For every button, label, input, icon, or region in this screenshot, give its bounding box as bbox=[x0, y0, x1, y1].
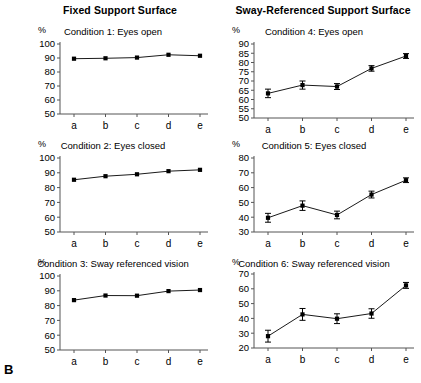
x-axis-tick-label: c bbox=[135, 238, 140, 249]
panel-condition-4: Condition 4: Eyes open%50556065707580859… bbox=[214, 26, 414, 138]
y-axis-tick-label: 60 bbox=[44, 330, 55, 341]
chart-plot-area: 5060708090100abcde bbox=[18, 258, 208, 370]
y-axis-tick-label: 100 bbox=[39, 152, 55, 163]
y-axis-tick-label: 90 bbox=[238, 38, 249, 49]
x-axis-tick-label: a bbox=[71, 356, 77, 367]
y-axis-tick-label: 40 bbox=[238, 313, 249, 324]
y-axis-tick-label: 70 bbox=[238, 268, 249, 279]
x-axis-tick-label: c bbox=[335, 354, 340, 365]
y-axis-tick-label: 80 bbox=[44, 182, 55, 193]
y-axis-tick-label: 70 bbox=[44, 197, 55, 208]
panel-condition-2: Condition 2: Eyes closed%5060708090100ab… bbox=[18, 140, 208, 252]
x-axis-tick-label: d bbox=[369, 124, 375, 135]
x-axis-tick-label: a bbox=[265, 354, 271, 365]
chart-plot-area: 304050607080abcde bbox=[214, 140, 414, 252]
y-axis-tick-label: 50 bbox=[238, 298, 249, 309]
x-axis-tick-label: d bbox=[369, 238, 375, 249]
y-axis-tick-label: 70 bbox=[44, 80, 55, 91]
y-axis-tick-label: 50 bbox=[44, 344, 55, 355]
x-axis-tick-label: a bbox=[71, 120, 77, 131]
y-axis-tick-label: 90 bbox=[44, 285, 55, 296]
x-axis-tick-label: b bbox=[300, 238, 306, 249]
x-axis-tick-label: c bbox=[135, 356, 140, 367]
x-axis-tick-label: e bbox=[403, 124, 409, 135]
y-axis-tick-label: 80 bbox=[44, 66, 55, 77]
y-axis-tick-label: 60 bbox=[44, 94, 55, 105]
x-axis-tick-label: d bbox=[369, 354, 375, 365]
y-axis-tick-label: 30 bbox=[238, 328, 249, 339]
y-axis-tick-label: 50 bbox=[44, 226, 55, 237]
x-axis-tick-label: c bbox=[335, 238, 340, 249]
y-axis-tick-label: 90 bbox=[44, 167, 55, 178]
column-heading-fixed-support: Fixed Support Surface bbox=[30, 4, 210, 16]
y-axis-tick-label: 60 bbox=[238, 182, 249, 193]
x-axis-tick-label: e bbox=[197, 120, 203, 131]
y-axis-tick-label: 80 bbox=[238, 152, 249, 163]
panel-condition-1: Condition 1: Eyes open%5060708090100abcd… bbox=[18, 26, 208, 134]
x-axis-tick-label: d bbox=[166, 356, 172, 367]
y-axis-tick-label: 60 bbox=[238, 283, 249, 294]
y-axis-tick-label: 40 bbox=[238, 212, 249, 223]
panel-condition-6: Condition 6: Sway referenced vision%2030… bbox=[214, 258, 414, 370]
x-axis-tick-label: d bbox=[166, 238, 172, 249]
y-axis-tick-label: 100 bbox=[39, 270, 55, 281]
x-axis-tick-label: a bbox=[265, 124, 271, 135]
y-axis-tick-label: 100 bbox=[39, 38, 55, 49]
panel-condition-3: Condition 3: Sway referenced vision%5060… bbox=[18, 258, 208, 370]
chart-plot-area: 5060708090100abcde bbox=[18, 140, 208, 252]
x-axis-tick-label: e bbox=[197, 238, 203, 249]
column-heading-sway-referenced-support: Sway-Referenced Support Surface bbox=[228, 4, 418, 16]
y-axis-tick-label: 60 bbox=[44, 212, 55, 223]
x-axis-tick-label: e bbox=[197, 356, 203, 367]
x-axis-tick-label: b bbox=[300, 124, 306, 135]
y-axis-tick-label: 20 bbox=[238, 342, 249, 353]
x-axis-tick-label: b bbox=[103, 120, 109, 131]
x-axis-tick-label: b bbox=[300, 354, 306, 365]
x-axis-tick-label: a bbox=[71, 238, 77, 249]
x-axis-tick-label: b bbox=[103, 238, 109, 249]
x-axis-tick-label: c bbox=[335, 124, 340, 135]
y-axis-tick-label: 80 bbox=[44, 300, 55, 311]
x-axis-tick-label: b bbox=[103, 356, 109, 367]
y-axis-tick-label: 90 bbox=[44, 52, 55, 63]
y-axis-tick-label: 50 bbox=[238, 197, 249, 208]
x-axis-tick-label: a bbox=[265, 238, 271, 249]
y-axis-tick-label: 70 bbox=[44, 315, 55, 326]
figure-panel-b: Fixed Support Surface Sway-Referenced Su… bbox=[0, 0, 421, 383]
x-axis-tick-label: d bbox=[166, 120, 172, 131]
chart-plot-area: 203040506070abcde bbox=[214, 258, 414, 370]
x-axis-tick-label: e bbox=[403, 354, 409, 365]
chart-plot-area: 505560657075808590abcde bbox=[214, 26, 414, 138]
panel-condition-5: Condition 5: Eyes closed%304050607080abc… bbox=[214, 140, 414, 252]
x-axis-tick-label: c bbox=[135, 120, 140, 131]
y-axis-tick-label: 70 bbox=[238, 167, 249, 178]
y-axis-tick-label: 50 bbox=[44, 108, 55, 119]
y-axis-tick-label: 30 bbox=[238, 226, 249, 237]
figure-label: B bbox=[4, 362, 13, 377]
x-axis-tick-label: e bbox=[403, 238, 409, 249]
chart-plot-area: 5060708090100abcde bbox=[18, 26, 208, 134]
